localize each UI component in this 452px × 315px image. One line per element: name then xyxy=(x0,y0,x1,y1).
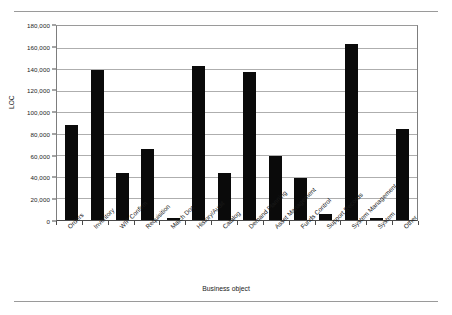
y-tick-label: 140,000 xyxy=(27,65,50,72)
y-tick-mark xyxy=(52,112,56,113)
document-rule-top xyxy=(14,11,438,12)
x-axis-title: Business object xyxy=(0,285,452,292)
bar-slot xyxy=(313,26,338,220)
y-tick-mark xyxy=(52,90,56,91)
bar xyxy=(218,173,231,220)
y-tick-mark xyxy=(52,46,56,47)
y-tick-label: 60,000 xyxy=(30,152,50,159)
y-axis-title: LOC xyxy=(8,95,15,109)
bar xyxy=(243,72,256,220)
x-axis-labels: OrdersInventoryWIP ConfirmRequisitionMat… xyxy=(56,225,418,285)
document-rule-bottom xyxy=(14,301,438,302)
y-tick-label: 180,000 xyxy=(27,22,50,29)
y-tick-label: 120,000 xyxy=(27,87,50,94)
y-tick-label: 0 xyxy=(46,218,50,225)
y-tick-mark xyxy=(52,199,56,200)
bar xyxy=(192,66,205,220)
bar xyxy=(91,70,104,220)
plot-wrapper: 020,00040,00060,00080,000100,000120,0001… xyxy=(56,25,418,221)
y-tick-label: 40,000 xyxy=(30,174,50,181)
bar-slot xyxy=(212,26,237,220)
bar-slot xyxy=(110,26,135,220)
plot-area xyxy=(56,25,418,221)
y-tick-mark xyxy=(52,25,56,26)
bar xyxy=(396,129,409,220)
bar-series xyxy=(57,26,417,220)
x-tick-mark xyxy=(418,221,419,225)
bar xyxy=(116,173,129,220)
bar-slot xyxy=(339,26,364,220)
y-tick-label: 100,000 xyxy=(27,109,50,116)
bar-slot xyxy=(161,26,186,220)
y-tick-label: 160,000 xyxy=(27,43,50,50)
bar-slot xyxy=(186,26,211,220)
bar-slot xyxy=(135,26,160,220)
y-tick-label: 20,000 xyxy=(30,196,50,203)
bar xyxy=(65,125,78,220)
y-tick-mark xyxy=(52,155,56,156)
bar-chart-figure: LOC 020,00040,00060,00080,000100,000120,… xyxy=(0,13,452,299)
y-tick-mark xyxy=(52,68,56,69)
bar-slot xyxy=(237,26,262,220)
y-tick-mark xyxy=(52,177,56,178)
bar-slot xyxy=(84,26,109,220)
y-tick-label: 80,000 xyxy=(30,130,50,137)
bar-slot xyxy=(59,26,84,220)
y-tick-mark xyxy=(52,133,56,134)
